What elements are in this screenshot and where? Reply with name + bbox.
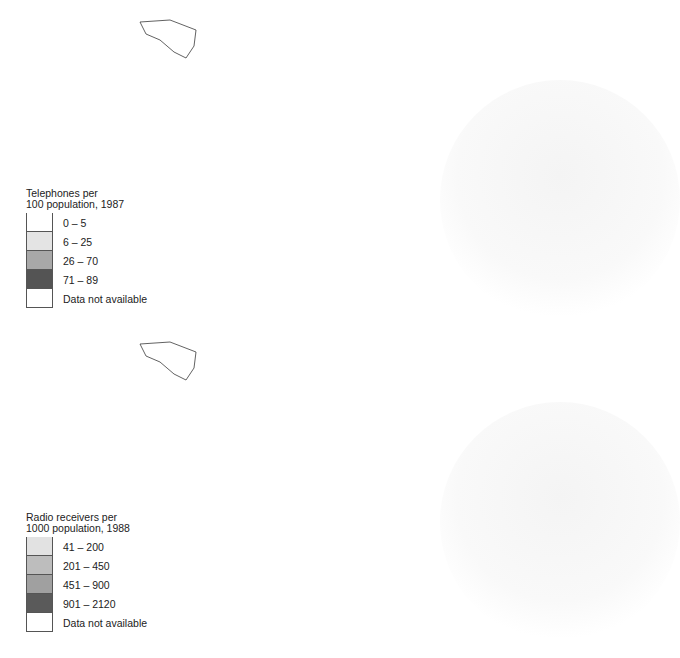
- telephones-map-panel: Telephones per 100 population, 1987 0 – …: [0, 0, 675, 320]
- legend-title-line-2: 100 population, 1987: [26, 199, 147, 210]
- legend-item: Data not available: [26, 289, 147, 308]
- legend-label: Data not available: [63, 293, 147, 305]
- legend-label: Data not available: [63, 617, 147, 629]
- legend-label: 451 – 900: [63, 579, 110, 591]
- legend-item: 451 – 900: [26, 575, 147, 594]
- legend-item: 0 – 5: [26, 213, 147, 232]
- legend-label: 901 – 2120: [63, 598, 116, 610]
- legend-swatch: [26, 213, 53, 232]
- legend-swatch: [26, 575, 53, 594]
- legend-label: 41 – 200: [63, 541, 104, 553]
- legend-title: Telephones per 100 population, 1987: [26, 188, 147, 210]
- legend-item: 26 – 70: [26, 251, 147, 270]
- legend-item: 6 – 25: [26, 232, 147, 251]
- legend-swatch: [26, 537, 53, 556]
- legend-label: 6 – 25: [63, 236, 92, 248]
- legend-swatch: [26, 556, 53, 575]
- region-greenland: [140, 20, 196, 58]
- legend-item: Data not available: [26, 613, 147, 632]
- legend-item: 41 – 200: [26, 537, 147, 556]
- legend-swatch: [26, 613, 53, 632]
- legend-item: 71 – 89: [26, 270, 147, 289]
- telephones-legend: Telephones per 100 population, 1987 0 – …: [26, 188, 147, 308]
- legend-title-line-2: 1000 population, 1988: [26, 523, 147, 534]
- legend-label: 71 – 89: [63, 274, 98, 286]
- radios-legend: Radio receivers per 1000 population, 198…: [26, 512, 147, 632]
- legend-item: 901 – 2120: [26, 594, 147, 613]
- legend-swatch: [26, 232, 53, 251]
- radios-map-panel: Radio receivers per 1000 population, 198…: [0, 322, 675, 642]
- legend-item: 201 – 450: [26, 556, 147, 575]
- region-greenland: [140, 342, 196, 380]
- legend-label: 26 – 70: [63, 255, 98, 267]
- legend-title: Radio receivers per 1000 population, 198…: [26, 512, 147, 534]
- legend-swatch: [26, 289, 53, 308]
- legend-swatch: [26, 270, 53, 289]
- legend-label: 201 – 450: [63, 560, 110, 572]
- legend-swatch: [26, 251, 53, 270]
- legend-label: 0 – 5: [63, 217, 86, 229]
- legend-swatch: [26, 594, 53, 613]
